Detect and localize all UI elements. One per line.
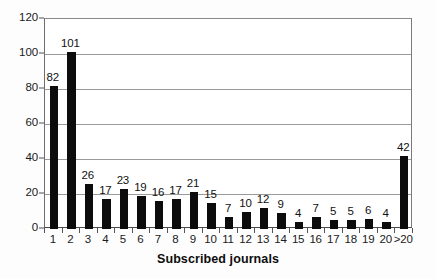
y-axis-tick-mark bbox=[39, 193, 44, 194]
x-axis-tick-mark bbox=[272, 228, 273, 233]
bar-value-label: 26 bbox=[82, 170, 94, 182]
bar bbox=[365, 219, 374, 230]
bar-value-label: 17 bbox=[169, 185, 181, 197]
bar-value-label: 9 bbox=[277, 199, 283, 211]
bar-value-label: 15 bbox=[204, 189, 216, 201]
x-axis-tick-label: 5 bbox=[120, 233, 126, 246]
bar-value-label: 101 bbox=[61, 38, 80, 50]
x-axis-tick-label: 7 bbox=[155, 233, 161, 246]
x-axis-tick-label: 9 bbox=[190, 233, 196, 246]
bar bbox=[102, 199, 111, 229]
x-axis-title: Subscribed journals bbox=[0, 252, 436, 266]
x-axis-tick-label: 2 bbox=[67, 233, 73, 246]
y-axis-tick-mark bbox=[39, 18, 44, 19]
x-axis-tick-label: 14 bbox=[274, 233, 286, 246]
x-axis-tick-label: >20 bbox=[394, 233, 413, 246]
y-axis-tick-mark bbox=[39, 53, 44, 54]
y-axis-tick-label: 20 bbox=[0, 187, 38, 199]
x-axis-tick-mark bbox=[202, 228, 203, 233]
y-axis-tick-mark bbox=[39, 88, 44, 89]
y-axis-tick-label: 0 bbox=[0, 222, 38, 234]
x-axis-tick-label: 3 bbox=[85, 233, 91, 246]
x-axis-tick-label: 6 bbox=[137, 233, 143, 246]
bar bbox=[242, 212, 251, 230]
x-axis-tick-label: 10 bbox=[204, 233, 216, 246]
y-axis-tick-label: 60 bbox=[0, 117, 38, 129]
bar-value-label: 6 bbox=[365, 205, 371, 217]
bar bbox=[50, 86, 59, 230]
x-axis-tick-label: 16 bbox=[309, 233, 321, 246]
y-axis-tick-label: 100 bbox=[0, 47, 38, 59]
bar bbox=[207, 203, 216, 229]
y-axis-tick-mark bbox=[39, 158, 44, 159]
x-axis-tick-mark bbox=[184, 228, 185, 233]
gridline bbox=[45, 54, 411, 55]
bar bbox=[225, 217, 234, 229]
x-axis-tick-mark bbox=[377, 228, 378, 233]
x-axis-tick-mark bbox=[289, 228, 290, 233]
bar bbox=[67, 52, 76, 229]
bar-value-label: 4 bbox=[383, 208, 389, 220]
x-axis-tick-mark bbox=[237, 228, 238, 233]
x-axis-tick-label: 8 bbox=[172, 233, 178, 246]
x-axis-tick-label: 18 bbox=[344, 233, 356, 246]
x-axis-tick-mark bbox=[219, 228, 220, 233]
bar bbox=[190, 192, 199, 229]
bar bbox=[312, 217, 321, 229]
x-axis-tick-mark bbox=[114, 228, 115, 233]
x-axis-tick-label: 17 bbox=[327, 233, 339, 246]
y-axis-tick-label: 120 bbox=[0, 12, 38, 24]
bar-value-label: 7 bbox=[225, 203, 231, 215]
y-axis-tick-mark bbox=[39, 123, 44, 124]
bar bbox=[382, 222, 391, 229]
x-axis-tick-mark-origin bbox=[44, 228, 45, 233]
x-axis-tick-mark bbox=[149, 228, 150, 233]
gridline bbox=[45, 89, 411, 90]
x-axis-tick-mark bbox=[97, 228, 98, 233]
bar bbox=[347, 220, 356, 229]
gridline bbox=[45, 159, 411, 160]
x-axis-tick-label: 13 bbox=[257, 233, 269, 246]
bar bbox=[400, 156, 409, 230]
x-axis-tick-label: 1 bbox=[50, 233, 56, 246]
x-axis-tick-mark bbox=[62, 228, 63, 233]
x-axis-tick-mark bbox=[307, 228, 308, 233]
bar bbox=[137, 196, 146, 229]
x-axis-tick-label: 11 bbox=[222, 233, 234, 246]
y-axis-tick-label: 40 bbox=[0, 152, 38, 164]
bar-value-label: 4 bbox=[295, 208, 301, 220]
bar bbox=[295, 222, 304, 229]
x-axis-tick-label: 15 bbox=[292, 233, 304, 246]
x-axis-tick-label: 20 bbox=[380, 233, 392, 246]
x-axis-tick-mark bbox=[167, 228, 168, 233]
x-axis-tick-mark bbox=[132, 228, 133, 233]
bar-value-label: 5 bbox=[348, 206, 354, 218]
bar-value-label: 10 bbox=[239, 198, 251, 210]
bar bbox=[120, 189, 129, 229]
bar bbox=[172, 199, 181, 229]
bar-value-label: 21 bbox=[187, 178, 199, 190]
bar bbox=[85, 184, 94, 230]
bar-value-label: 16 bbox=[152, 187, 164, 199]
gridline bbox=[45, 124, 411, 125]
bar-value-label: 7 bbox=[313, 203, 319, 215]
y-axis-tick-label: 80 bbox=[0, 82, 38, 94]
bar-value-label: 82 bbox=[47, 72, 59, 84]
x-axis-tick-label: 12 bbox=[239, 233, 251, 246]
x-axis-tick-mark bbox=[324, 228, 325, 233]
bar-value-label: 12 bbox=[257, 194, 269, 206]
bar bbox=[277, 213, 286, 229]
bar bbox=[330, 220, 339, 229]
bar-value-label: 23 bbox=[117, 175, 129, 187]
x-axis-tick-label: 19 bbox=[362, 233, 374, 246]
bar-chart: 020406080100120 123456789101112131415161… bbox=[0, 0, 436, 279]
bar-value-label: 5 bbox=[330, 206, 336, 218]
x-axis-tick-mark bbox=[359, 228, 360, 233]
bar-value-label: 19 bbox=[134, 182, 146, 194]
bar bbox=[260, 208, 269, 229]
bar-value-label: 42 bbox=[397, 142, 409, 154]
x-axis-tick-mark bbox=[79, 228, 80, 233]
bar bbox=[155, 201, 164, 229]
x-axis-tick-mark bbox=[342, 228, 343, 233]
bar-value-label: 17 bbox=[99, 185, 111, 197]
